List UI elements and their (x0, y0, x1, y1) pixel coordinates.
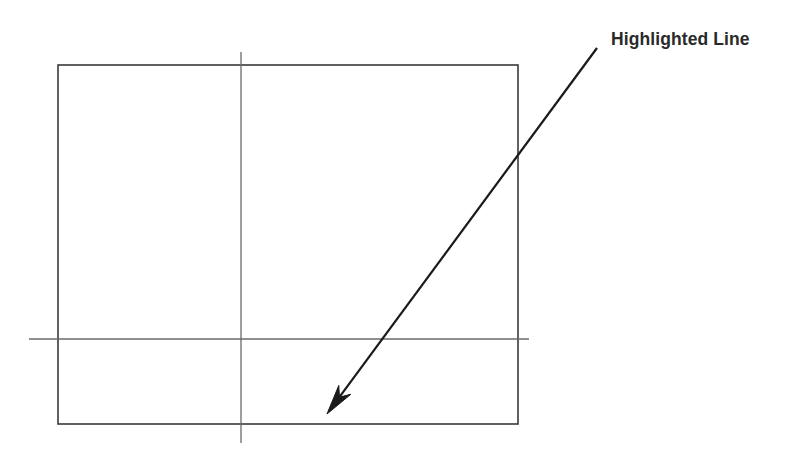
diagram-svg (0, 0, 793, 458)
figure-canvas: Highlighted Line (0, 0, 793, 458)
annotation-label: Highlighted Line (611, 30, 750, 49)
canvas-background (0, 0, 793, 458)
